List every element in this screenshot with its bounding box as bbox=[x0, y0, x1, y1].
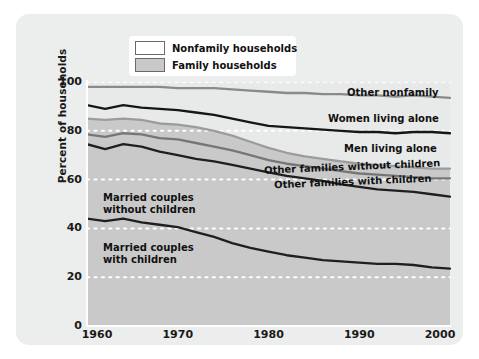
annotation-married-couples-with-children-2: with children bbox=[103, 254, 177, 266]
y-tick-40: 40 bbox=[54, 221, 82, 234]
x-tick-1960: 1960 bbox=[82, 328, 113, 341]
legend-swatch-family bbox=[135, 58, 165, 72]
legend-label-nonfamily: Nonfamily households bbox=[172, 43, 297, 54]
annotation-married-couples-with-children-1: Married couples bbox=[103, 242, 194, 254]
y-tick-0: 0 bbox=[54, 319, 82, 332]
chart-panel: 020406080100 19601970198019902000 Percen… bbox=[16, 14, 463, 345]
legend-item-nonfamily: Nonfamily households bbox=[135, 40, 290, 56]
legend-item-family: Family households bbox=[135, 57, 290, 73]
annotation-married-couples-without-children-1: Married couples bbox=[103, 192, 194, 204]
legend-swatch-nonfamily bbox=[135, 41, 165, 55]
x-axis-tick-labels: 19601970198019902000 bbox=[87, 328, 450, 348]
annotation-men-living-alone: Men living alone bbox=[344, 143, 437, 155]
y-axis-line bbox=[86, 80, 88, 327]
y-tick-20: 20 bbox=[54, 270, 82, 283]
chart-screenshot: 020406080100 19601970198019902000 Percen… bbox=[0, 0, 479, 359]
x-tick-1980: 1980 bbox=[253, 328, 284, 341]
annotation-other-nonfamily: Other nonfamily bbox=[347, 87, 439, 99]
x-tick-1970: 1970 bbox=[162, 328, 193, 341]
x-axis-line bbox=[86, 325, 451, 327]
y-axis-title: Percent of households bbox=[56, 36, 68, 196]
annotation-women-living-alone: Women living alone bbox=[328, 113, 439, 125]
legend: Nonfamily households Family households bbox=[129, 36, 296, 76]
annotation-married-couples-without-children-2: without children bbox=[103, 204, 196, 216]
x-tick-1990: 1990 bbox=[344, 328, 375, 341]
legend-label-family: Family households bbox=[172, 60, 277, 71]
x-tick-2000: 2000 bbox=[425, 328, 456, 341]
